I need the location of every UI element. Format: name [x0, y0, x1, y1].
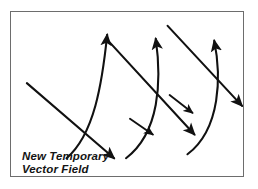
- figure-frame: New Temporary Vector Field: [10, 11, 244, 177]
- straight-arrow-1: [27, 83, 114, 158]
- straight-arrow-3: [168, 26, 242, 106]
- curved-arc-1: [67, 35, 108, 158]
- curved-arc-3: [187, 41, 217, 155]
- caption-line-1: New Temporary: [22, 150, 142, 163]
- curved-arc-2: [126, 39, 158, 159]
- figure-caption: New Temporary Vector Field: [22, 150, 142, 175]
- caption-line-2: Vector Field: [22, 163, 142, 176]
- figure-page: New Temporary Vector Field: [0, 0, 258, 189]
